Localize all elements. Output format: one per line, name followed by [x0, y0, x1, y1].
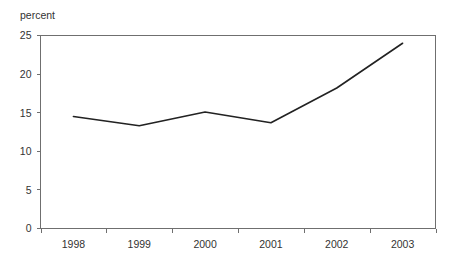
y-tick-label: 5 — [26, 184, 32, 196]
x-tick-label: 2002 — [325, 238, 349, 250]
y-tick-label: 25 — [20, 29, 32, 41]
y-tick-label: 10 — [20, 145, 32, 157]
y-tick-label: 20 — [20, 68, 32, 80]
x-tick-label: 2001 — [259, 238, 283, 250]
y-tick-label: 15 — [20, 107, 32, 119]
y-tick-label: 0 — [26, 222, 32, 234]
line-chart: percent 0510152025 199819992000200120022… — [0, 0, 450, 269]
y-axis-title: percent — [20, 9, 55, 21]
x-tick-label: 1999 — [128, 238, 152, 250]
x-tick-label: 1998 — [62, 238, 86, 250]
x-tick-label: 2000 — [193, 238, 217, 250]
x-tick-label: 2003 — [391, 238, 415, 250]
chart-container: percent 0510152025 199819992000200120022… — [0, 0, 450, 269]
